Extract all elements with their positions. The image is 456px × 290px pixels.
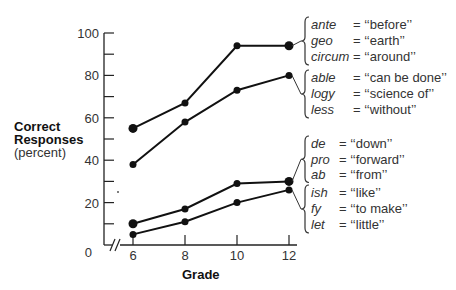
data-point xyxy=(182,218,189,225)
brace xyxy=(301,185,309,233)
y-tick-label: 20 xyxy=(85,196,99,211)
brace xyxy=(301,17,309,65)
data-point xyxy=(234,87,241,94)
annotation-word: circum xyxy=(311,49,349,64)
leader-line xyxy=(292,190,301,209)
data-point xyxy=(130,161,137,168)
brace xyxy=(301,136,309,183)
leader-line xyxy=(292,159,301,181)
series-line xyxy=(133,46,289,129)
annotation-meaning: = ‘‘before’’ xyxy=(353,17,412,32)
line-chart: Correct Responses (percent) Grade 020406… xyxy=(0,0,456,290)
annotation-meaning: = ‘‘from’’ xyxy=(339,167,387,182)
annotation-meaning: = ‘‘like’’ xyxy=(339,185,381,200)
annotation-meaning: = ‘‘little’’ xyxy=(339,217,385,232)
leader-line xyxy=(292,41,301,46)
y-tick-label: 0 xyxy=(85,245,92,260)
annotation-meaning: = ‘‘can be done’’ xyxy=(353,70,447,85)
annotation-word: ante xyxy=(311,17,336,32)
x-tick-label: 8 xyxy=(181,248,188,263)
annotation-meaning: = ‘‘earth’’ xyxy=(353,33,405,48)
x-axis-title: Grade xyxy=(182,267,220,282)
data-point xyxy=(234,180,241,187)
annotation-word: ish xyxy=(311,185,328,200)
annotation-meaning: = ‘‘down’’ xyxy=(339,136,392,151)
annotation-meaning: = ‘‘around’’ xyxy=(353,49,416,64)
axes: 020406080100681012 xyxy=(77,26,297,263)
y-axis-subtitle: (percent) xyxy=(14,145,66,160)
x-tick-label: 10 xyxy=(230,248,244,263)
data-series xyxy=(129,41,294,238)
data-point xyxy=(129,219,138,228)
x-tick-label: 6 xyxy=(129,248,136,263)
y-tick-label: 60 xyxy=(85,111,99,126)
series-line xyxy=(133,181,289,223)
y-tick-label: 80 xyxy=(85,68,99,83)
leader-line xyxy=(292,75,301,94)
data-point xyxy=(286,72,293,79)
data-point xyxy=(234,199,241,206)
annotation-word: able xyxy=(311,70,336,85)
data-point xyxy=(182,205,189,212)
annotation-word: geo xyxy=(311,33,333,48)
annotation-word: less xyxy=(311,102,335,117)
annotation-word: let xyxy=(311,217,326,232)
data-point xyxy=(130,231,137,238)
axis-break-mark xyxy=(115,239,120,251)
y-tick-label: 100 xyxy=(77,26,99,41)
series-line xyxy=(133,75,289,164)
x-tick-label: 12 xyxy=(282,248,296,263)
annotation-word: fy xyxy=(311,201,323,216)
data-point xyxy=(234,42,241,49)
data-point xyxy=(182,119,189,126)
brace xyxy=(301,70,309,118)
data-point xyxy=(182,99,189,106)
annotation-meaning: = ‘‘forward’’ xyxy=(339,152,405,167)
annotation-word: logy xyxy=(311,86,336,101)
annotation-word: de xyxy=(311,136,325,151)
data-point xyxy=(286,186,293,193)
annotation-word: ab xyxy=(311,167,325,182)
annotation-word: pro xyxy=(310,152,330,167)
y-tick-label: 40 xyxy=(85,153,99,168)
brace-annotations: ante= ‘‘before’’geo= ‘‘earth’’circum= ‘‘… xyxy=(292,17,447,233)
annotation-meaning: = ‘‘science of’’ xyxy=(353,86,434,101)
annotation-meaning: = ‘‘to make’’ xyxy=(339,201,408,216)
stray-mark xyxy=(117,191,119,193)
data-point xyxy=(129,124,138,133)
annotation-meaning: = ‘‘without’’ xyxy=(353,102,417,117)
